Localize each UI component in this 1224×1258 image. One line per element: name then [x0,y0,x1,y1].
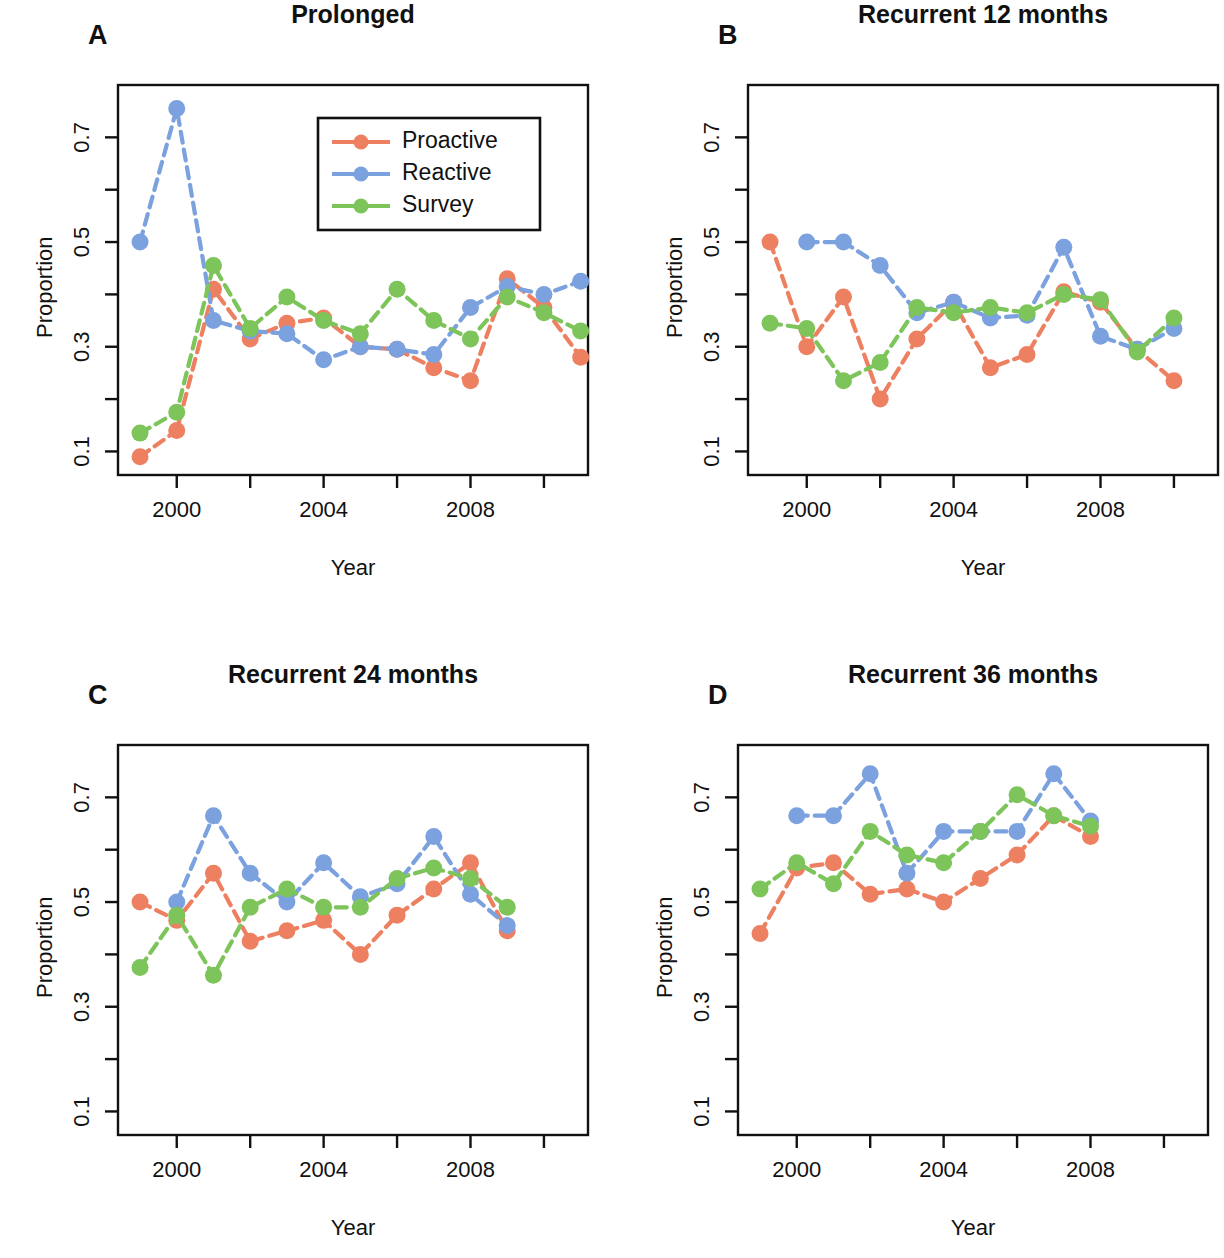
data-point [1082,818,1099,835]
y-tick-label: 0.3 [699,331,724,362]
data-point [1009,846,1026,863]
panel-d: DRecurrent 36 months0.10.30.50.720002004… [620,660,1220,1258]
x-tick-label: 2008 [1066,1157,1115,1182]
data-point [1092,328,1109,345]
data-point [132,894,149,911]
data-point [462,299,479,316]
x-axis-label: Year [118,555,588,581]
data-point [872,354,889,371]
x-tick-label: 2008 [1076,497,1125,522]
data-point [499,289,516,306]
data-point [168,100,185,117]
data-point [835,372,852,389]
data-point [762,315,779,332]
x-tick-label: 2008 [446,497,495,522]
x-tick-label: 2008 [446,1157,495,1182]
data-point [1045,807,1062,824]
data-point [762,234,779,251]
y-axis: 0.10.30.50.7 [69,782,118,1127]
series-group [132,807,516,984]
data-point [278,922,295,939]
data-point [908,330,925,347]
data-point [205,257,222,274]
plot-area-a: 0.10.30.50.7200020042008ProactiveReactiv… [0,0,600,600]
legend-label: Reactive [402,159,491,185]
plot-area-b: 0.10.30.50.7200020042008 [630,0,1224,600]
x-tick-label: 2000 [772,1157,821,1182]
y-tick-label: 0.7 [689,782,714,813]
plot-area-c: 0.10.30.50.7200020042008 [0,660,600,1258]
y-tick-label: 0.1 [689,1096,714,1127]
data-point [862,823,879,840]
data-point [425,828,442,845]
x-tick-label: 2004 [919,1157,968,1182]
y-tick-label: 0.5 [689,887,714,918]
data-point [1019,304,1036,321]
data-point [242,865,259,882]
data-point [315,351,332,368]
data-point [205,312,222,329]
series-proactive [762,234,1183,408]
panel-c: CRecurrent 24 months0.10.30.50.720002004… [0,660,600,1258]
data-point [315,899,332,916]
data-point [825,854,842,871]
data-point [835,234,852,251]
series-line [140,279,581,457]
plot-frame [118,745,588,1135]
data-point [278,880,295,897]
data-point [798,234,815,251]
data-point [752,880,769,897]
legend-swatch-marker [354,199,369,214]
data-point [788,807,805,824]
data-point [982,299,999,316]
y-tick-label: 0.1 [699,436,724,467]
data-point [1009,786,1026,803]
data-point [1092,291,1109,308]
data-point [898,846,915,863]
data-point [132,425,149,442]
data-point [798,320,815,337]
data-point [389,870,406,887]
data-point [278,325,295,342]
data-point [499,917,516,934]
x-tick-label: 2000 [782,497,831,522]
data-point [168,907,185,924]
plot-frame [748,85,1218,475]
data-point [572,349,589,366]
legend-swatch-marker [354,167,369,182]
data-point [425,860,442,877]
x-tick-label: 2004 [929,497,978,522]
data-point [862,765,879,782]
data-point [205,807,222,824]
x-tick-label: 2000 [152,1157,201,1182]
data-point [205,865,222,882]
y-axis: 0.10.30.50.7 [69,122,118,467]
data-point [352,899,369,916]
data-point [425,880,442,897]
data-point [1165,309,1182,326]
x-tick-label: 2004 [299,1157,348,1182]
data-point [1045,765,1062,782]
series-reactive [798,234,1182,358]
data-point [389,907,406,924]
y-axis: 0.10.30.50.7 [689,782,738,1127]
data-point [1019,346,1036,363]
data-point [462,854,479,871]
series-line [760,816,1090,934]
series-line [807,242,1174,349]
data-point [168,422,185,439]
y-tick-label: 0.1 [69,1096,94,1127]
data-point [935,854,952,871]
data-point [132,234,149,251]
data-point [862,886,879,903]
data-point [872,257,889,274]
y-tick-label: 0.5 [699,227,724,258]
x-axis: 200020042008 [152,475,544,522]
legend: ProactiveReactiveSurvey [318,118,540,230]
y-tick-label: 0.7 [69,782,94,813]
data-point [1055,239,1072,256]
data-point [972,870,989,887]
y-axis-label: Proportion [32,896,58,998]
data-point [205,967,222,984]
data-point [242,933,259,950]
